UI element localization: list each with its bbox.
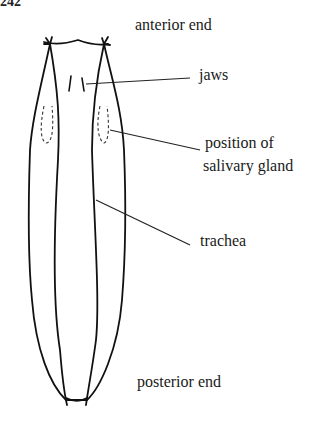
salivary-gland-left — [41, 106, 53, 143]
trachea-right — [86, 44, 104, 405]
leader-trachea — [96, 200, 190, 245]
leader-jaws — [86, 78, 190, 84]
jaw-left — [69, 76, 71, 91]
trachea-left — [50, 44, 67, 405]
label-gland-line1: position of — [205, 134, 274, 152]
jaw-right — [82, 78, 84, 91]
label-jaws: jaws — [199, 66, 228, 84]
larva-diagram — [0, 0, 325, 429]
label-trachea: trachea — [200, 232, 246, 250]
salivary-gland-right — [98, 106, 109, 143]
label-gland-line2: salivary gland — [203, 157, 293, 175]
head-edge — [44, 40, 108, 45]
label-anterior-end: anterior end — [135, 16, 212, 34]
label-posterior-end: posterior end — [137, 373, 221, 391]
body-outline — [29, 44, 126, 400]
